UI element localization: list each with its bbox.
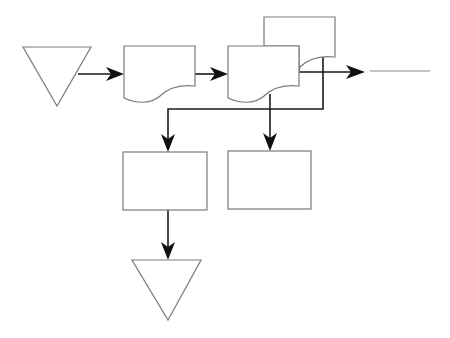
process-left-box[interactable] [123, 152, 207, 210]
flowchart-canvas [0, 0, 450, 338]
merge-top-triangle[interactable] [23, 47, 91, 106]
process-right-box[interactable] [228, 151, 311, 209]
merge-bottom-triangle[interactable] [132, 260, 201, 320]
shapes [23, 17, 335, 320]
multi-document-front-shape[interactable] [228, 46, 299, 102]
document-1-shape[interactable] [124, 46, 195, 102]
